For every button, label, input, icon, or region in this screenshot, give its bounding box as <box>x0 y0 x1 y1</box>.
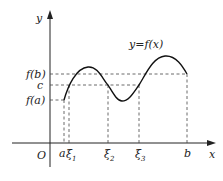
xi1-label: ξ1 <box>66 148 77 163</box>
function-curve <box>64 56 187 101</box>
x-axis-label: x <box>209 148 216 161</box>
c-label: c <box>37 79 43 92</box>
xi3-label: ξ3 <box>135 148 146 163</box>
y-axis-arrow-icon <box>47 10 53 19</box>
curve-label: y=f(x) <box>128 38 163 51</box>
xi2-label: ξ2 <box>104 148 115 163</box>
fa-label: f(a) <box>25 94 45 107</box>
a-label: a <box>59 147 66 160</box>
diagram-canvas: y=f(x) y x O f(b) c f(a) a ξ1 ξ2 ξ3 b <box>0 0 223 181</box>
x-axis-arrow-icon <box>207 140 216 146</box>
y-axis-label: y <box>35 12 43 25</box>
origin-label: O <box>37 149 46 162</box>
b-label: b <box>184 147 191 160</box>
